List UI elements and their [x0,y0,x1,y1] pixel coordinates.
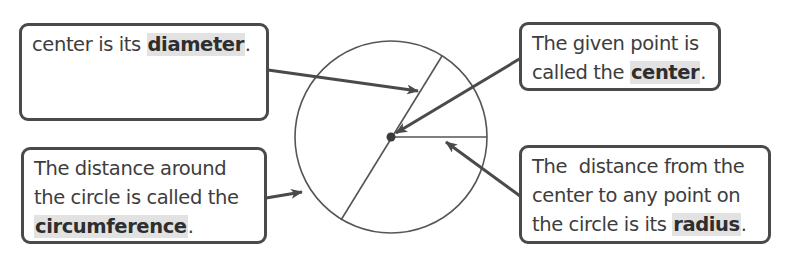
period: . [741,213,747,236]
term-diameter: diameter [147,33,245,56]
period: . [700,61,706,84]
callout-line: the circle is its radius. [532,210,760,239]
radius-arrow [446,142,520,196]
diameter-callout: center is its diameter. [19,23,269,121]
diameter-arrow [268,70,418,91]
period: . [188,215,194,238]
term-center: center [630,61,700,84]
callout-line: The distance from the [532,152,760,181]
period: . [245,33,251,56]
term-circumference: circumference [34,215,188,238]
circumference-callout: The distance around the circle is called… [21,147,267,244]
callout-line: center is its diameter. [32,30,258,59]
radius-callout: The distance from the center to any poin… [519,145,771,244]
callout-text: called the [532,61,630,84]
callout-line: The distance around [34,154,256,183]
term-radius: radius [672,213,741,236]
callout-line: The given point is [532,29,710,58]
callout-line: center to any point on [532,181,760,210]
callout-line: the circle is called the [34,183,256,212]
center-point [387,133,396,142]
callout-text: the circle is its [532,213,672,236]
center-callout: The given point is called the center. [519,22,721,91]
callout-line: circumference. [34,212,256,241]
callout-text: center is its [32,33,147,56]
callout-line: called the center. [532,58,710,87]
circumference-arrow [266,192,302,198]
